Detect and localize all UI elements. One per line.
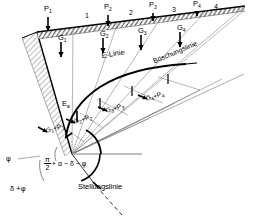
figure-canvas xyxy=(0,0,257,219)
boeschungslinie-group xyxy=(72,10,245,154)
phi-leader-line xyxy=(18,156,40,159)
wall-hatching xyxy=(22,32,72,156)
label-wedge-4: 4 xyxy=(214,3,218,10)
slip-ray-1 xyxy=(72,27,73,154)
label-load-P4: P4 xyxy=(193,0,201,9)
force-polygon-ties xyxy=(68,77,200,142)
label-angle-phi: φ xyxy=(6,155,11,163)
formula-rest: + α − δ − φ xyxy=(52,160,86,167)
tie-1 xyxy=(68,130,84,142)
label-angle-formula: π 2 + α − δ − φ xyxy=(44,156,86,172)
earth-pressure-figure: P1 P2 P3 P4 1 2 3 4 G1 G2 G3 G4 E-Linie … xyxy=(0,0,257,219)
label-weight-G2: G2 xyxy=(100,30,109,39)
label-load-P1: P1 xyxy=(44,5,52,14)
label-stellungslinie: Stellungslinie xyxy=(78,183,122,191)
label-wedge-3: 3 xyxy=(172,6,176,13)
e-linie-group xyxy=(66,63,197,137)
label-wedge-1: 1 xyxy=(85,12,89,19)
retaining-wall xyxy=(22,32,72,156)
formula-numerator: π xyxy=(44,156,51,164)
label-load-P2: P2 xyxy=(104,3,112,12)
label-weight-G3: G3 xyxy=(138,27,147,36)
formula-denominator: 2 xyxy=(44,164,51,171)
boeschungslinie-upper xyxy=(72,10,245,154)
arc-pi-half-alpha-delta-phi xyxy=(86,130,101,154)
label-wedge-2: 2 xyxy=(129,9,133,16)
label-weight-G4: G4 xyxy=(177,24,186,33)
tie-5 xyxy=(158,77,200,90)
label-ea: Ea xyxy=(62,100,70,109)
label-angle-delta-plus-phi: δ +φ xyxy=(10,185,26,193)
label-load-P3: P3 xyxy=(149,1,157,10)
e-linie-tail xyxy=(186,63,197,64)
label-weight-G1: G1 xyxy=(58,34,67,43)
formula-fraction: π 2 xyxy=(44,156,51,172)
